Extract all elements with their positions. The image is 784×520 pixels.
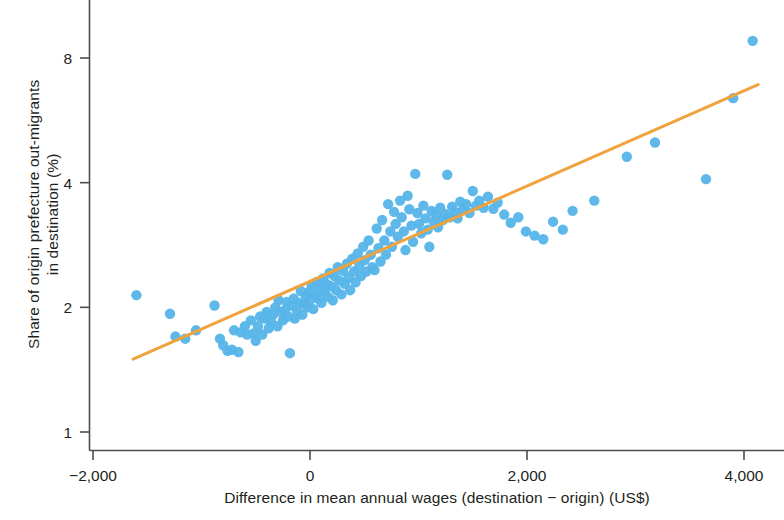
scatter-point (567, 206, 577, 216)
y-tick-label: 4 (63, 175, 72, 192)
y-axis-label-line-1: in destination (%) (43, 4, 62, 424)
scatter-point (131, 290, 141, 300)
scatter-point (328, 295, 338, 305)
scatter-point (622, 152, 632, 162)
y-tick-label: 1 (63, 424, 72, 441)
scatter-point (513, 212, 523, 222)
x-tick-label: −2,000 (69, 467, 117, 484)
x-axis-label: Difference in mean annual wages (destina… (90, 488, 784, 507)
x-ticks-group: −2,00002,0004,000 (69, 451, 764, 485)
y-tick-label: 2 (63, 299, 72, 316)
scatter-point (499, 209, 509, 219)
scatter-point (363, 235, 373, 245)
scatter-point (233, 347, 243, 357)
scatter-point (209, 300, 219, 310)
scatter-point (538, 234, 548, 244)
trend-line-group (133, 85, 758, 359)
trend-line (133, 85, 758, 359)
scatter-point (701, 174, 711, 184)
scatter-point (377, 215, 387, 225)
scatter-point (747, 36, 757, 46)
scatter-point (548, 216, 558, 226)
scatter-point (400, 245, 410, 255)
scatter-points-group (131, 36, 758, 359)
y-axis-label: Share of origin prefecture out-migrantsi… (24, 4, 63, 424)
y-axis-label-container: Share of origin prefecture out-migrantsi… (24, 4, 63, 424)
y-axis-label-line-0: Share of origin prefecture out-migrants (24, 4, 43, 424)
scatter-point (396, 212, 406, 222)
scatter-point (442, 170, 452, 180)
scatter-point (558, 224, 568, 234)
scatter-point (468, 186, 478, 196)
y-ticks-group: 1248 (63, 50, 89, 441)
scatter-point (402, 191, 412, 201)
scatter-point (165, 309, 175, 319)
scatter-point (589, 195, 599, 205)
scatter-point (410, 169, 420, 179)
scatter-plot-figure: 1248 −2,00002,0004,000 Share of origin p… (0, 0, 784, 520)
scatter-point (369, 265, 379, 275)
x-tick-label: 2,000 (508, 467, 547, 484)
scatter-point (308, 304, 318, 314)
scatter-point (461, 199, 471, 209)
y-tick-label: 8 (63, 50, 72, 67)
x-tick-label: 4,000 (725, 467, 764, 484)
scatter-point (285, 348, 295, 358)
scatter-point (650, 137, 660, 147)
scatter-point (424, 242, 434, 252)
plot-canvas: 1248 −2,00002,0004,000 (0, 0, 784, 520)
x-tick-label: 0 (306, 467, 315, 484)
